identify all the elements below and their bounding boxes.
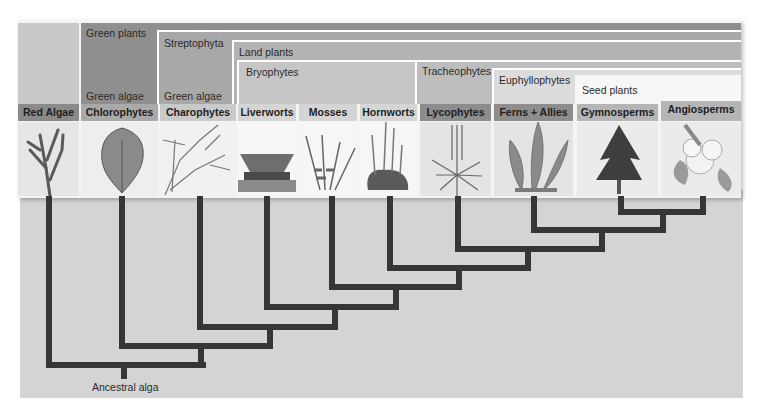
charophyte-illustration — [163, 125, 230, 195]
hornwort-illustration — [367, 122, 408, 190]
fern-illustration — [509, 122, 568, 192]
red-algae-illustration — [28, 130, 63, 196]
branch-seed-plants-stem — [660, 209, 666, 230]
branch-root-stub — [121, 362, 127, 379]
branch-land-plants-stem — [332, 304, 338, 327]
branch-red-algae — [46, 196, 52, 368]
branch-green-plants-node — [119, 343, 273, 349]
branch-lycophytes — [455, 196, 461, 252]
branch-charophytes — [197, 196, 203, 330]
conifer-tree-illustration — [596, 125, 642, 194]
branch-mosses-stem — [393, 284, 399, 307]
liverwort-illustration — [238, 154, 296, 192]
moss-illustration — [306, 135, 355, 190]
branch-chlorophytes — [119, 196, 125, 349]
branch-hornworts-stem — [456, 265, 462, 287]
branch-mosses — [329, 196, 335, 290]
branch-tracheophytes-stem — [525, 246, 531, 268]
root-label: Ancestral alga — [92, 381, 159, 393]
branch-streptophyta-stem — [267, 324, 273, 346]
branch-liverworts — [264, 196, 270, 310]
organism-illustrations — [0, 0, 761, 415]
chlorophyte-illustration — [102, 128, 143, 193]
branch-euphyllophytes-stem — [599, 227, 605, 249]
branch-green-plants-stem — [198, 343, 204, 365]
lycophyte-illustration — [432, 125, 482, 196]
branch-hornworts — [387, 196, 393, 271]
flower-illustration — [674, 125, 732, 192]
